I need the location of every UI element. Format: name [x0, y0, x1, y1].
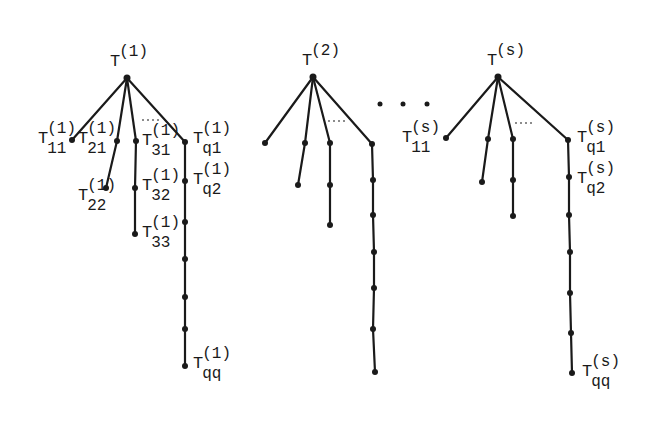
tree-2-branch-4-edge-4: [373, 215, 374, 252]
forest-diagram: T(1)11T(1)21T(1)22T(1)31T(1)32T(1)33T(1)…: [0, 0, 662, 424]
tree-1-node-4-6: [182, 326, 188, 332]
tree-2-node-3-1: [327, 140, 333, 146]
tree-s-label-4-2: T(s)q2: [577, 160, 615, 198]
tree-s-node-1-1: [443, 135, 449, 141]
tree-1-label-4-1: T(1)q1: [193, 120, 231, 158]
tree-s-root-label: T(s): [487, 42, 525, 70]
forest-ellipsis-dot-3: [425, 102, 430, 107]
tree-2-node-4-1: [369, 141, 375, 147]
tree-1-node-3-3: [132, 231, 138, 237]
tree-1-node-4-2: [182, 178, 188, 184]
tree-s-node-4-3: [566, 212, 572, 218]
tree-1-node-4-1: [182, 139, 188, 145]
tree-s-node-4-1: [565, 137, 571, 143]
tree-s-node-3-2: [510, 177, 516, 183]
tree-2-root-label: T(2): [302, 42, 340, 70]
tree-2-node-3-2: [327, 182, 333, 188]
tree-2-node-2-1: [302, 140, 308, 146]
tree-1-node-2-1: [114, 138, 120, 144]
tree-1-node-4-5: [182, 294, 188, 300]
tree-2-node-1-1: [262, 140, 268, 146]
tree-1-label-2-2: T(1)22: [78, 177, 116, 215]
tree-1-root-label: T(1): [110, 43, 148, 71]
tree-2-branch-4-edge-6: [373, 288, 374, 329]
tree-2-node-2-2: [295, 182, 301, 188]
tree-s-node-4-4: [567, 249, 573, 255]
tree-2-node-4-6: [370, 326, 376, 332]
tree-s-node-2-1: [485, 136, 491, 142]
tree-1-node-3-2: [132, 185, 138, 191]
tree-s-node-4-5: [567, 290, 573, 296]
tree-1-label-4-7: T(1)qq: [193, 345, 231, 383]
tree-1-node-4-4: [182, 256, 188, 262]
tree-s-label-4-1: T(s)q1: [577, 119, 615, 157]
tree-2-node-4-2: [370, 177, 376, 183]
tree-1-branch-3-edge-2: [135, 141, 136, 188]
tree-1-node-3-1: [133, 138, 139, 144]
tree-s-branch-4-edge-6: [570, 293, 571, 333]
tree-1-label-4-2: T(1)q2: [193, 161, 231, 199]
tree-1-root-node: [124, 75, 131, 82]
tree-2-branch-4-edge-2: [372, 144, 373, 180]
tree-s-node-3-3: [510, 213, 516, 219]
tree-s-root-node: [495, 74, 502, 81]
tree-2-root-node: [310, 74, 317, 81]
tree-1-node-4-7: [182, 363, 188, 369]
tree-s-branch-4-edge-4: [569, 215, 570, 252]
tree-2-node-4-4: [371, 249, 377, 255]
tree-s-node-3-1: [510, 136, 516, 142]
tree-s-branch-4-edge-7: [571, 333, 572, 373]
tree-2-node-4-3: [370, 212, 376, 218]
tree-2-node-3-3: [327, 222, 333, 228]
tree-2-branch-2-edge-2: [298, 143, 305, 185]
tree-s-node-4-2: [566, 174, 572, 180]
forest-ellipsis-dot-1: [378, 102, 383, 107]
tree-2-node-4-5: [371, 285, 377, 291]
tree-s-node-4-7: [569, 370, 575, 376]
tree-s-label-1-1: T(s)11: [402, 119, 440, 157]
tree-s-node-4-6: [568, 330, 574, 336]
tree-1-node-4-3: [182, 219, 188, 225]
forest-ellipsis-dot-2: [401, 102, 406, 107]
tree-1-label-3-2: T(1)32: [142, 167, 180, 205]
tree-1-label-3-1: T(1)31: [142, 122, 180, 160]
tree-s-node-2-2: [479, 179, 485, 185]
tree-s-branch-2-edge-2: [482, 139, 488, 182]
tree-s-branch-4-edge-1: [498, 77, 568, 140]
tree-s-branch-3-edge-1: [498, 77, 513, 139]
tree-s-label-4-7: T(s)qq: [582, 353, 620, 391]
tree-2-branch-4-edge-7: [373, 329, 375, 372]
tree-s-branch-4-edge-2: [568, 140, 569, 177]
tree-1-label-3-3: T(1)33: [142, 214, 180, 252]
tree-2-node-4-7: [372, 369, 378, 375]
